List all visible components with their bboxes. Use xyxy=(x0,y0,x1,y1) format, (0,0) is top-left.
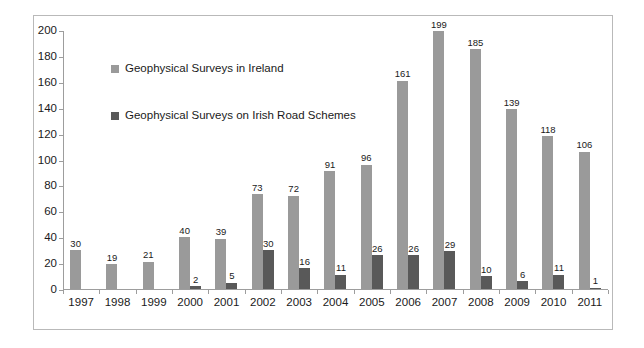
bar-series-b[interactable]: 26 xyxy=(408,30,419,289)
bar-rect xyxy=(190,286,201,289)
bar-series-a[interactable]: 199 xyxy=(433,30,444,289)
x-axis-label: 2007 xyxy=(432,297,458,309)
x-axis-label: 2005 xyxy=(359,297,385,309)
bar-rect xyxy=(361,165,372,289)
legend-label-series-a: Geophysical Surveys in Ireland xyxy=(125,63,284,75)
bar-rect xyxy=(433,31,444,289)
bar-series-a[interactable]: 30 xyxy=(70,30,81,289)
bar-value-label: 11 xyxy=(336,263,346,273)
legend-item-series-b[interactable]: Geophysical Surveys on Irish Road Scheme… xyxy=(111,109,356,123)
x-axis-tick xyxy=(317,290,318,294)
bar-group: 19929 xyxy=(426,30,462,289)
y-axis-tick-label: 120 xyxy=(38,129,57,141)
bar-series-b[interactable]: 10 xyxy=(481,30,492,289)
y-axis-tick-label: 60 xyxy=(44,207,57,219)
y-axis-tick-label: 180 xyxy=(38,51,57,63)
bar-group: 30 xyxy=(63,30,99,289)
x-axis-tick xyxy=(136,290,137,294)
x-axis-tick xyxy=(535,290,536,294)
bar-rect xyxy=(226,283,237,289)
bar-value-label: 21 xyxy=(143,250,154,260)
x-axis-tick xyxy=(499,290,500,294)
bar-rect xyxy=(288,196,299,289)
bar-rect xyxy=(506,109,517,289)
bar-value-label: 96 xyxy=(361,153,372,163)
bar-value-label: 26 xyxy=(372,244,383,254)
bar-value-label: 26 xyxy=(408,244,419,254)
x-axis-tick xyxy=(354,290,355,294)
bar-series-b[interactable]: 26 xyxy=(372,30,383,289)
bar-rect xyxy=(335,275,346,289)
bar-rect xyxy=(408,255,419,289)
chart-legend: Geophysical Surveys in Ireland Geophysic… xyxy=(111,62,356,156)
y-axis-tick-label: 20 xyxy=(44,258,57,270)
x-axis-tick xyxy=(390,290,391,294)
legend-swatch-icon-series-b xyxy=(111,112,119,120)
bar-value-label: 10 xyxy=(481,265,492,275)
bar-value-label: 1 xyxy=(593,276,598,286)
bar-rect xyxy=(517,281,528,289)
bar-rect xyxy=(481,276,492,289)
y-axis-tick-label: 140 xyxy=(38,103,57,115)
y-axis-tick-label: 160 xyxy=(38,77,57,89)
bar-series-a[interactable]: 96 xyxy=(361,30,372,289)
bar-series-b[interactable]: 6 xyxy=(517,30,528,289)
x-axis-label: 2002 xyxy=(250,297,276,309)
x-axis-label: 2003 xyxy=(286,297,312,309)
bar-rect xyxy=(143,262,154,289)
bar-rect xyxy=(299,268,310,289)
bar-rect xyxy=(590,288,601,289)
x-axis-tick xyxy=(172,290,173,294)
bar-value-label: 39 xyxy=(216,227,227,237)
bar-value-label: 199 xyxy=(431,20,447,30)
bar-series-a[interactable]: 161 xyxy=(397,30,408,289)
bar-value-label: 11 xyxy=(554,263,564,273)
bar-rect xyxy=(106,264,117,289)
bar-value-label: 91 xyxy=(325,160,336,170)
x-axis-label: 1999 xyxy=(141,297,167,309)
bar-value-label: 72 xyxy=(288,184,299,194)
x-axis-label: 2008 xyxy=(468,297,494,309)
bar-series-a[interactable]: 118 xyxy=(542,30,553,289)
legend-item-series-a[interactable]: Geophysical Surveys in Ireland xyxy=(111,62,356,76)
bar-value-label: 73 xyxy=(252,183,263,193)
bar-value-label: 5 xyxy=(229,271,234,281)
bar-group: 11811 xyxy=(535,30,571,289)
bar-series-a[interactable]: 185 xyxy=(470,30,481,289)
bar-group: 18510 xyxy=(463,30,499,289)
bar-series-a[interactable]: 139 xyxy=(506,30,517,289)
bar-rect xyxy=(542,136,553,289)
y-axis-tick-label: 40 xyxy=(44,232,57,244)
bar-series-b[interactable]: 29 xyxy=(444,30,455,289)
x-axis-tick xyxy=(572,290,573,294)
bar-value-label: 30 xyxy=(263,239,274,249)
x-axis-label: 1997 xyxy=(68,297,94,309)
bar-group: 9626 xyxy=(354,30,390,289)
bar-rect xyxy=(179,237,190,289)
y-axis-tick-label: 0 xyxy=(51,284,57,296)
bar-series-b[interactable] xyxy=(81,30,92,289)
bar-value-label: 29 xyxy=(445,240,456,250)
bar-value-label: 6 xyxy=(520,270,525,280)
bar-rect xyxy=(70,250,81,289)
y-axis-tick-label: 80 xyxy=(44,181,57,193)
legend-label-series-b: Geophysical Surveys on Irish Road Scheme… xyxy=(125,110,356,122)
x-axis-label: 2001 xyxy=(214,297,240,309)
bar-value-label: 16 xyxy=(299,257,310,267)
bar-rect xyxy=(252,194,263,289)
chart-frame: 020406080100120140160180200 199719981999… xyxy=(33,15,613,330)
bar-series-a[interactable]: 106 xyxy=(579,30,590,289)
category-axis-line xyxy=(63,289,608,290)
bar-series-b[interactable]: 11 xyxy=(553,30,564,289)
x-axis-tick xyxy=(99,290,100,294)
bar-series-b[interactable]: 1 xyxy=(590,30,601,289)
bar-value-label: 40 xyxy=(179,226,190,236)
x-axis-tick xyxy=(608,290,609,294)
x-axis-label: 1998 xyxy=(105,297,131,309)
x-axis-label: 2010 xyxy=(541,297,567,309)
legend-swatch-icon-series-a xyxy=(111,65,119,73)
bar-rect xyxy=(263,250,274,289)
x-axis-tick xyxy=(281,290,282,294)
bar-group: 1396 xyxy=(499,30,535,289)
bar-group: 1061 xyxy=(572,30,608,289)
